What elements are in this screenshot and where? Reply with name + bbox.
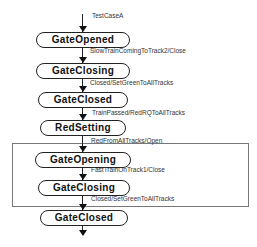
transition-label: Closed/SetGreenToAllTracks <box>91 195 174 202</box>
transition-label: FastTrainOnTrack1/Close <box>91 166 165 173</box>
state-gate-closed: GateClosed <box>38 92 128 108</box>
state-gate-closed: GateClosed <box>40 210 128 226</box>
transition-label: Closed/SetGreenToAllTracks <box>90 79 173 86</box>
initial-label: TestCaseA <box>92 12 123 19</box>
state-gate-closing: GateClosing <box>38 180 130 196</box>
transition-label: TrainPassed/RedRQToAllTracks <box>92 109 185 116</box>
state-gate-opened: GateOpened <box>36 32 130 48</box>
transition-label: RedFromAllTracks/Open <box>91 137 162 144</box>
state-diagram: TestCaseA GateOpened SlowTrainComingToTr… <box>0 0 257 247</box>
arrowhead-icon <box>79 230 87 236</box>
transition-label: SlowTrainComingToTrack2/Close <box>90 47 186 54</box>
state-gate-closing: GateClosing <box>36 63 130 79</box>
state-red-setting: RedSetting <box>40 120 126 136</box>
